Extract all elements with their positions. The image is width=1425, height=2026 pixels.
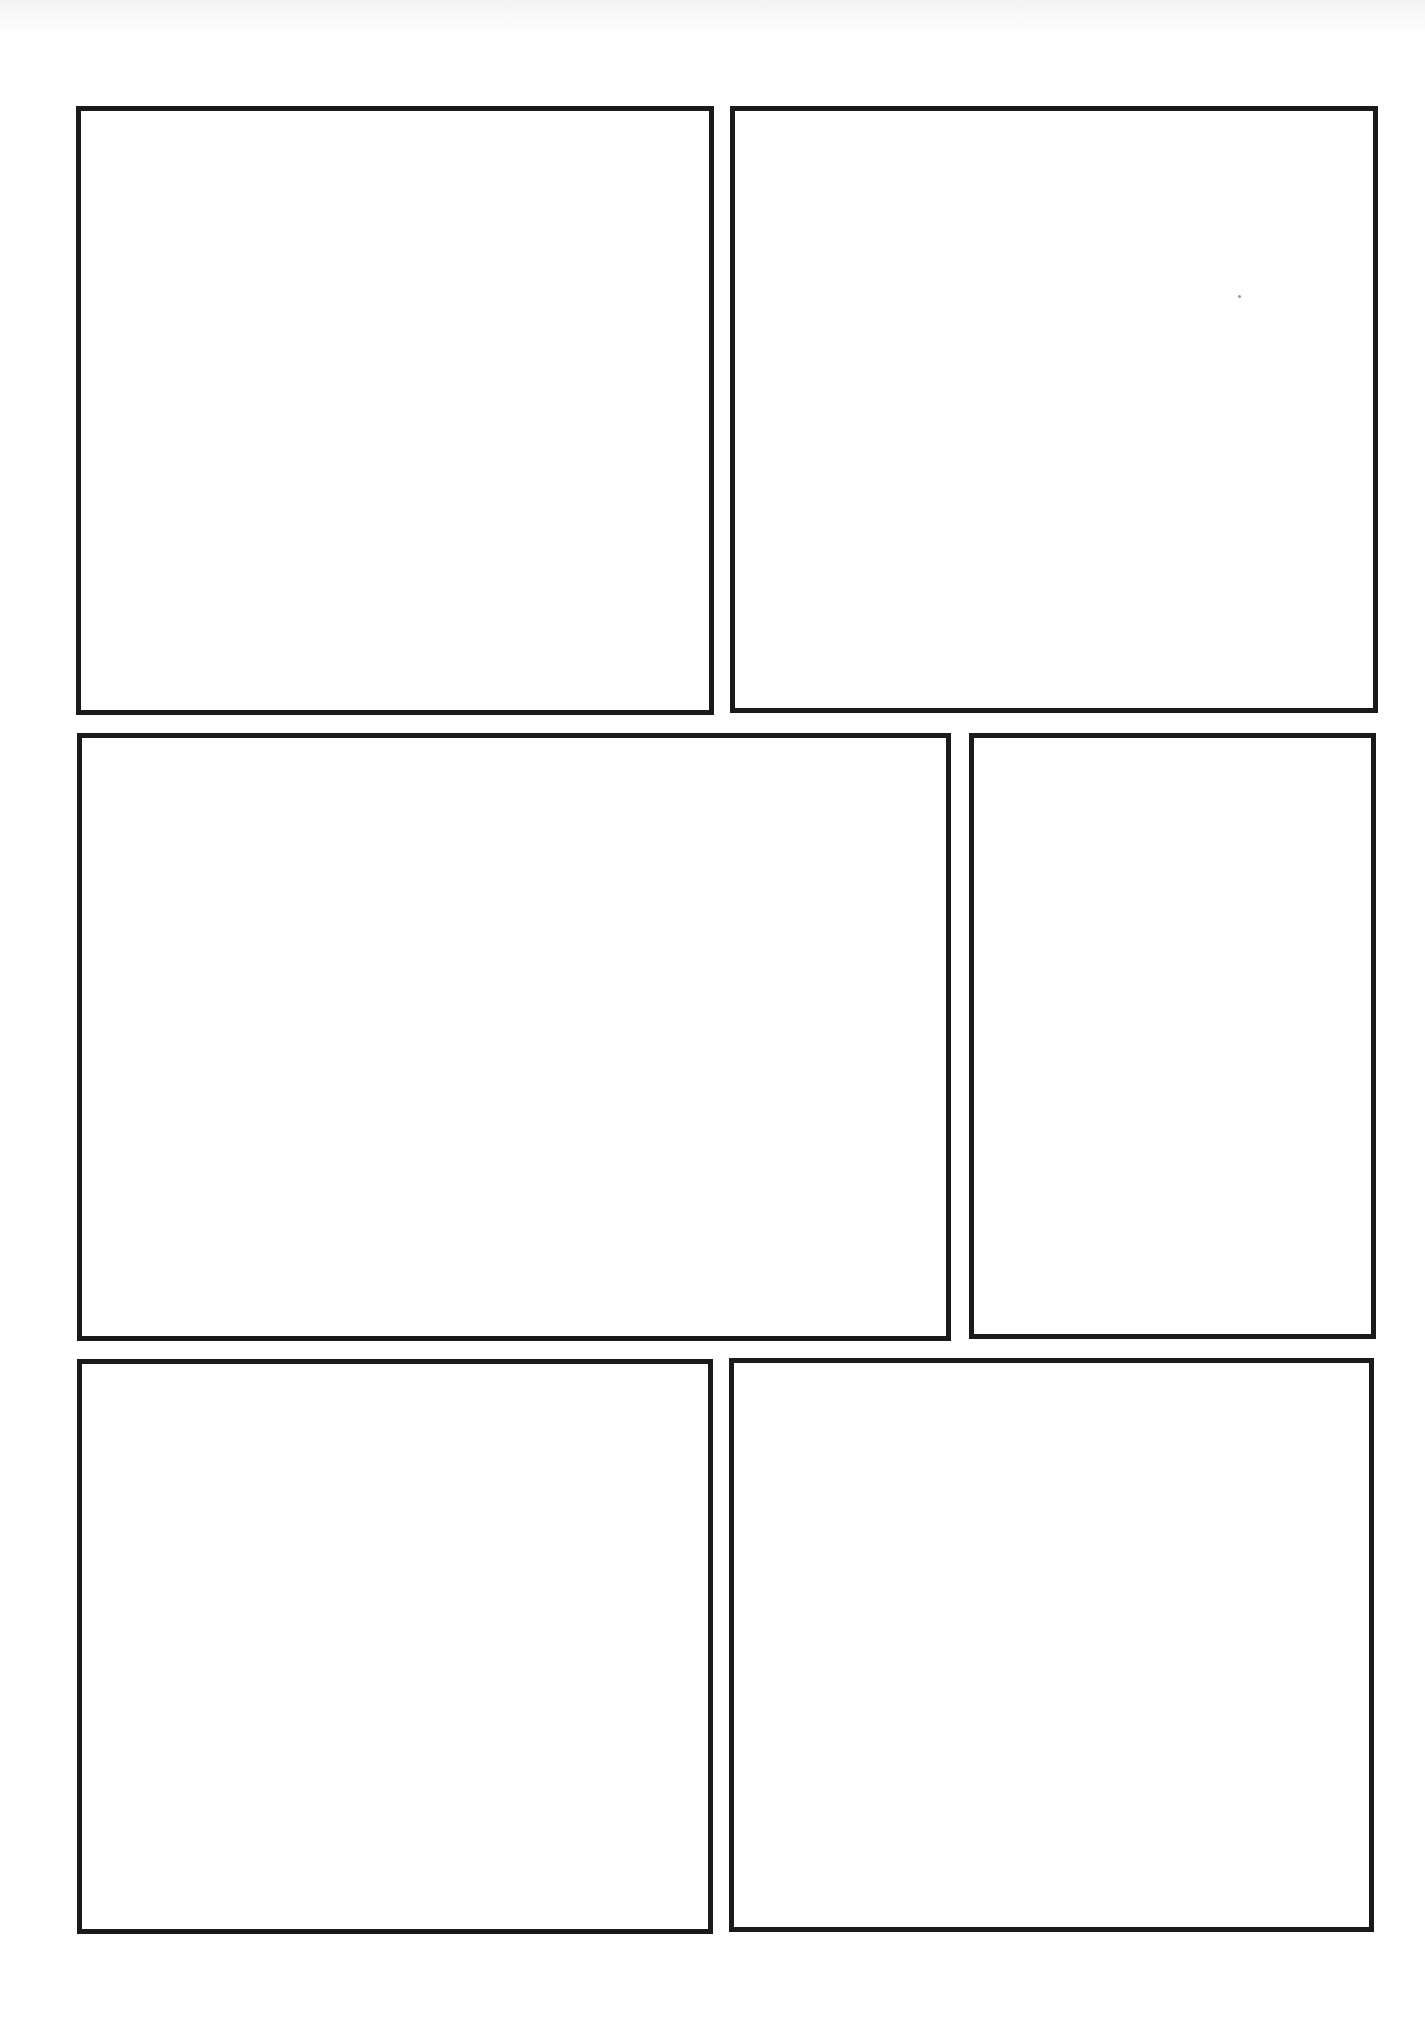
panel-top-left [76, 106, 714, 715]
scan-noise [0, 0, 1425, 36]
panel-top-right [730, 106, 1378, 713]
panel-bottom-left [77, 1359, 713, 1934]
panel-middle-right [969, 733, 1376, 1339]
panel-bottom-right [729, 1358, 1374, 1932]
comic-page [0, 0, 1425, 2026]
scan-speck [1238, 295, 1241, 298]
panel-middle-left [77, 733, 951, 1341]
